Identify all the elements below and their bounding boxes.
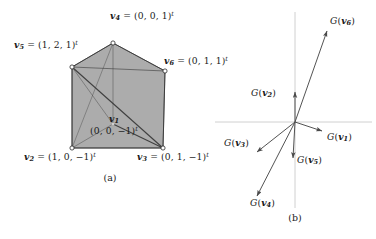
- vector-label-Gv2-paren-close: ): [272, 87, 276, 98]
- panel-b-vectors: [257, 31, 327, 196]
- vector-label-Gv5: G(v5): [297, 155, 322, 167]
- panel-b-graphic: [0, 0, 376, 239]
- vector-label-Gv2: G(v2): [251, 88, 276, 100]
- figure-container: v4 = (0, 0, 1)t v5 = (1, 2, 1)t v6 = (0,…: [0, 0, 376, 239]
- vector-arrow-Gv1: [295, 122, 322, 131]
- vector-arrow-Gv6: [295, 31, 327, 122]
- vector-label-Gv6: G(v6): [330, 16, 355, 28]
- panel-b-axes: [215, 12, 372, 208]
- vector-arrow-Gv4: [257, 122, 295, 196]
- panel-b-caption: (b): [280, 212, 310, 223]
- vector-label-Gv1-paren-close: ): [348, 131, 352, 142]
- vector-label-Gv4: G(v4): [250, 198, 275, 210]
- vector-label-Gv6-paren-close: ): [351, 15, 355, 26]
- vector-label-Gv3: G(v3): [224, 138, 249, 150]
- vector-label-Gv5-paren-close: ): [318, 154, 322, 165]
- vector-label-Gv4-paren-close: ): [271, 197, 275, 208]
- vector-arrow-Gv3: [257, 122, 295, 152]
- vector-label-Gv1: G(v1): [327, 132, 352, 144]
- vector-label-Gv3-paren-close: ): [245, 137, 249, 148]
